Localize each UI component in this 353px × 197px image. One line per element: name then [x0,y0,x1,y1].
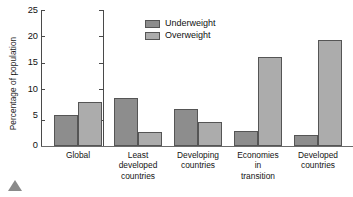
bar-global-underweight [54,115,78,146]
x-label-developed: Developed countries [285,150,351,171]
x-label-least-developed: Least developed countries [105,150,171,181]
x-label-least-line1: Least [105,150,171,160]
x-label-transition-line3: transition [225,171,291,181]
bar-developing-overweight [198,122,222,146]
triangle-marker-icon [8,180,22,191]
x-label-transition-line2: in [225,160,291,170]
y-tick-mark-10 [41,89,45,90]
y-tick-mark-25 [41,10,45,11]
legend-label-overweight: Overweight [165,31,211,40]
legend-item-underweight: Underweight [145,19,216,28]
y-tick-mark-20 [41,36,45,37]
inner-tick-mark-25 [99,10,103,11]
x-label-developed-line1: Developed [285,150,351,160]
x-label-global-line1: Global [48,150,108,160]
bar-global-overweight [78,102,102,146]
chart-legend: Underweight Overweight [145,19,216,43]
chart-figure: Percentage of population 25 20 15 10 5 0 [0,0,353,197]
y-tick-mark-5 [41,120,45,121]
bar-developed-overweight [318,40,342,146]
legend-label-underweight: Underweight [165,19,216,28]
y-axis-tick-labels: 25 20 15 10 5 0 [18,0,38,197]
x-label-least-line3: countries [105,171,171,181]
x-label-economies-transition: Economies in transition [225,150,291,181]
y-axis-spine-inner [103,10,104,147]
x-label-developing: Developing countries [165,150,231,171]
x-axis-baseline [41,146,353,147]
legend-swatch-overweight-icon [145,32,160,40]
bar-developed-underweight [294,135,318,146]
plot-area: Global Least developed countries Develop… [41,0,353,197]
x-label-developing-line1: Developing [165,150,231,160]
legend-swatch-underweight-icon [145,20,160,28]
y-tick-0: 0 [20,141,38,150]
y-tick-15: 15 [20,58,38,67]
bar-least-developed-underweight [114,98,138,146]
y-tick-5: 5 [20,111,38,120]
x-label-transition-line1: Economies [225,150,291,160]
x-label-global: Global [48,150,108,160]
x-label-developing-line2: countries [165,160,231,170]
y-tick-mark-15 [41,63,45,64]
inner-tick-mark-10 [99,89,103,90]
y-axis-spine-left [41,10,42,147]
x-label-least-line2: developed [105,160,171,170]
x-label-developed-line2: countries [285,160,351,170]
bar-developing-underweight [174,109,198,146]
y-axis-title: Percentage of population [9,14,18,154]
y-tick-20: 20 [20,32,38,41]
inner-tick-mark-15 [99,63,103,64]
bar-least-developed-overweight [138,132,162,146]
legend-item-overweight: Overweight [145,31,216,40]
bar-economies-transition-underweight [234,131,258,146]
y-tick-10: 10 [20,85,38,94]
y-tick-25: 25 [20,6,38,15]
inner-tick-mark-20 [99,36,103,37]
bar-economies-transition-overweight [258,57,282,146]
